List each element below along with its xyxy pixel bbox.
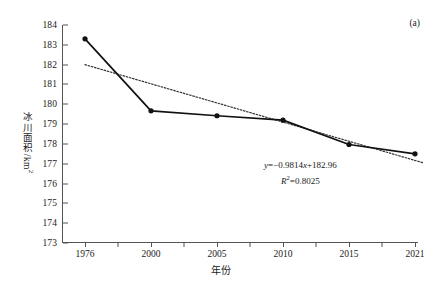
x-tick-label: 1976 — [76, 242, 95, 259]
x-tick-label: 2010 — [274, 242, 293, 259]
y-tick-label: 182 — [42, 60, 63, 70]
x-tick-label: 2021 — [406, 242, 425, 259]
x-tick-label: 2000 — [142, 242, 161, 259]
x-tick-label: 2005 — [208, 242, 227, 259]
regression-equation-line: y=−0.9814x+182.96 — [264, 160, 337, 172]
regression-annotation: y=−0.9814x+182.96 R2=0.8025 — [264, 160, 337, 187]
y-tick-label: 173 — [42, 238, 63, 248]
glacier-area-line-chart: (a) 冰川面积/km2 184 183 182 181 180 179 178… — [0, 0, 442, 285]
data-point — [214, 113, 219, 118]
y-tick-label: 175 — [42, 198, 63, 208]
y-axis-title: 冰川面积/km2 — [20, 112, 35, 174]
data-point — [82, 36, 87, 41]
data-point — [346, 142, 351, 147]
y-axis-unit-exponent: 2 — [27, 169, 35, 173]
r-value: =0.8025 — [290, 176, 320, 186]
y-tick-label: 178 — [42, 139, 63, 149]
y-tick-label: 176 — [42, 179, 63, 189]
data-point-markers — [82, 36, 417, 156]
equation-slope: =−0.9814 — [268, 160, 303, 170]
y-tick-label: 180 — [42, 99, 63, 109]
r-squared-line: R2=0.8025 — [264, 172, 337, 188]
y-axis-title-text: 冰川面积/km — [22, 112, 32, 170]
y-tick-label: 179 — [42, 119, 63, 129]
equation-intercept: +182.96 — [307, 160, 337, 170]
plot-area: 184 183 182 181 180 179 178 177 176 175 … — [62, 25, 418, 243]
y-tick-label: 177 — [42, 159, 63, 169]
data-line — [85, 39, 415, 154]
y-tick-label: 183 — [42, 40, 63, 50]
x-axis-title: 年份 — [0, 262, 442, 277]
series-layer — [63, 25, 419, 243]
data-point — [148, 108, 153, 113]
data-point — [412, 151, 417, 156]
data-point — [280, 118, 285, 123]
y-tick-label: 181 — [42, 79, 63, 89]
x-tick-label: 2015 — [340, 242, 359, 259]
y-tick-label: 184 — [42, 20, 63, 30]
y-tick-label: 174 — [42, 218, 63, 228]
